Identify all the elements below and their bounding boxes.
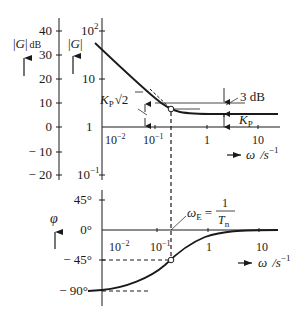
db-tick-40: 40 <box>39 23 52 38</box>
phase-tick-neg45: − 45° <box>63 252 92 267</box>
phase-freq-axis: 10−2 10−1 1 10 <box>102 228 278 254</box>
phase-tick-neg90: − 90° <box>59 283 88 298</box>
phase-axis-label: φ <box>50 211 58 226</box>
mag-freq-tick-1: 1 <box>204 133 210 147</box>
phase-corner-point <box>168 257 174 263</box>
corner-label-leader <box>171 216 186 230</box>
db-tick-neg20: − 20 <box>28 167 52 182</box>
kp-sqrt2-label: KP√2 <box>99 92 128 109</box>
phase-freq-tick-10: 10 <box>256 240 268 254</box>
lin-tick-1: 1 <box>86 119 93 134</box>
phase-axis: 45° 0° − 45° − 90° <box>59 190 105 306</box>
lin-tick-0.1: 10−1 <box>77 165 100 182</box>
mag-asymptote <box>150 89 171 109</box>
phase-freq-axis-label: ω/s−1 <box>258 253 290 270</box>
phase-freq-tick-0.01: 10−2 <box>109 239 130 254</box>
corner-label-denominator: Tn <box>218 213 230 229</box>
mag-freq-tick-10: 10 <box>252 133 264 147</box>
lin-tick-10: 10 <box>82 71 95 86</box>
mag-freq-axis: 10−2 10−1 1 10 <box>102 125 280 147</box>
phase-freq-tick-1: 1 <box>206 240 212 254</box>
kp-sqrt2-leader <box>138 109 147 115</box>
db-tick-20: 20 <box>39 71 52 86</box>
lin-axis-label: |G| <box>68 36 83 51</box>
phase-freq-tick-0.1: 10−1 <box>150 239 171 254</box>
mag-corner-point <box>168 106 174 112</box>
mag-freq-axis-label: ω/s−1 <box>246 145 278 162</box>
mag-freq-tick-0.1: 10−1 <box>143 132 164 147</box>
bode-diagram: 40 30 20 10 0 − 10 − 20 |G|dB 102 10 1 1… <box>0 0 308 319</box>
db-tick-neg10: − 10 <box>28 144 52 159</box>
db-tick-10: 10 <box>39 95 52 110</box>
3db-label: 3 dB <box>240 89 265 104</box>
phase-tick-45: 45° <box>74 192 92 207</box>
db-tick-0: 0 <box>46 119 53 134</box>
db-axis-label: |G|dB <box>13 36 42 51</box>
corner-label-numerator: 1 <box>222 196 228 210</box>
phase-tick-0: 0° <box>80 222 92 237</box>
3db-leader <box>226 98 238 105</box>
corner-frequency-label: ωE= <box>187 205 212 222</box>
mag-freq-tick-0.01: 10−2 <box>105 132 126 147</box>
lin-tick-100: 102 <box>81 21 99 38</box>
